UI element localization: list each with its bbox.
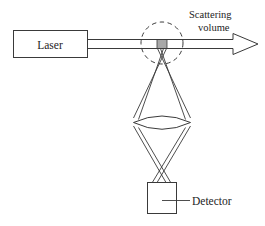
scattered-ray-bundle xyxy=(134,49,191,120)
scattered-ray-3 xyxy=(139,49,164,120)
detector-box xyxy=(148,183,177,214)
laser-label: Laser xyxy=(37,39,63,51)
focused-ray-1 xyxy=(155,126,191,186)
diagram-canvas: Laser Scattering volume Detector xyxy=(0,0,265,226)
scattered-ray-4 xyxy=(134,49,167,119)
focused-ray-3 xyxy=(139,128,172,184)
scattered-ray-2 xyxy=(161,49,186,120)
scattering-volume-label-line2: volume xyxy=(198,22,230,33)
detector-label: Detector xyxy=(192,195,232,207)
focused-ray-4 xyxy=(134,126,169,186)
scattering-volume-square xyxy=(157,40,167,49)
focused-ray-2 xyxy=(152,128,186,184)
scattered-ray-1 xyxy=(158,49,191,119)
focused-ray-bundle xyxy=(134,126,191,186)
scattering-volume-label-line1: Scattering xyxy=(189,9,232,20)
beam-arrowhead-icon xyxy=(233,34,258,55)
scattering-diagram: Laser Scattering volume Detector xyxy=(0,0,265,226)
collection-lens xyxy=(134,116,191,129)
